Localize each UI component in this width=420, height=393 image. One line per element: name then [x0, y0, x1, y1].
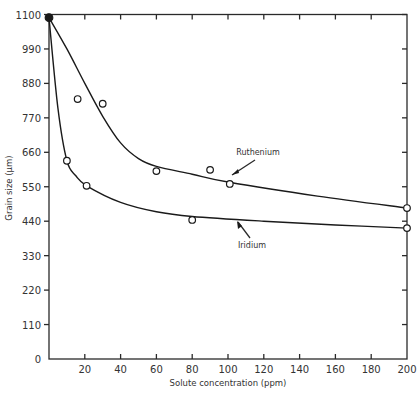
y-tick-label: 990 — [22, 44, 41, 55]
x-tick-label: 140 — [290, 364, 309, 375]
x-tick-label: 120 — [254, 364, 273, 375]
ruthenium-data-point — [404, 205, 411, 212]
iridium-arrowhead — [237, 221, 242, 229]
x-tick-label: 60 — [150, 364, 163, 375]
ruthenium-data-point — [153, 168, 160, 175]
y-tick-label: 220 — [22, 285, 41, 296]
ruthenium-curve — [49, 18, 407, 208]
y-tick-label: 0 — [35, 354, 41, 365]
start-data-point — [45, 14, 53, 22]
ruthenium-data-point — [207, 167, 214, 174]
ruthenium-data-point — [74, 96, 81, 103]
x-tick-label: 200 — [397, 364, 416, 375]
x-axis-title: Solute concentration (ppm) — [170, 378, 287, 388]
iridium-data-point — [64, 157, 71, 164]
curves — [49, 18, 407, 228]
iridium-curve — [49, 18, 407, 228]
iridium-data-point — [83, 183, 90, 190]
x-tick-label: 40 — [114, 364, 127, 375]
ruthenium-data-point — [99, 100, 106, 107]
y-tick-label: 330 — [22, 251, 41, 262]
grain-size-chart: 2040608010012014016018020001102203304405… — [0, 0, 420, 393]
y-tick-label: 660 — [22, 147, 41, 158]
y-tick-label: 770 — [22, 113, 41, 124]
y-axis-title: Grain size (μm) — [4, 155, 14, 220]
x-tick-label: 160 — [326, 364, 345, 375]
ruthenium-data-point — [226, 181, 233, 188]
x-tick-label: 100 — [218, 364, 237, 375]
y-tick-label: 880 — [22, 78, 41, 89]
iridium-data-point — [189, 217, 196, 224]
y-tick-label: 110 — [22, 320, 41, 331]
x-tick-label: 80 — [186, 364, 199, 375]
x-tick-label: 20 — [78, 364, 91, 375]
ruthenium-label: Ruthenium — [236, 148, 280, 157]
x-tick-label: 180 — [362, 364, 381, 375]
iridium-data-point — [404, 225, 411, 232]
iridium-label: Iridium — [238, 241, 266, 250]
markers — [45, 14, 410, 232]
y-tick-label: 1100 — [16, 10, 41, 21]
ruthenium-arrowhead — [232, 169, 239, 175]
y-tick-label: 440 — [22, 216, 41, 227]
y-tick-label: 550 — [22, 182, 41, 193]
annotations: RutheniumIridium — [232, 148, 280, 250]
